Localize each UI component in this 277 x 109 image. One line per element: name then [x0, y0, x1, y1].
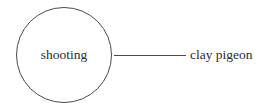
diagram-canvas: shooting clay pigeon	[0, 0, 277, 109]
node-label-shooting: shooting	[41, 47, 88, 62]
diagram-svg: shooting clay pigeon	[0, 0, 277, 109]
leaf-label-clay-pigeon: clay pigeon	[190, 47, 253, 62]
